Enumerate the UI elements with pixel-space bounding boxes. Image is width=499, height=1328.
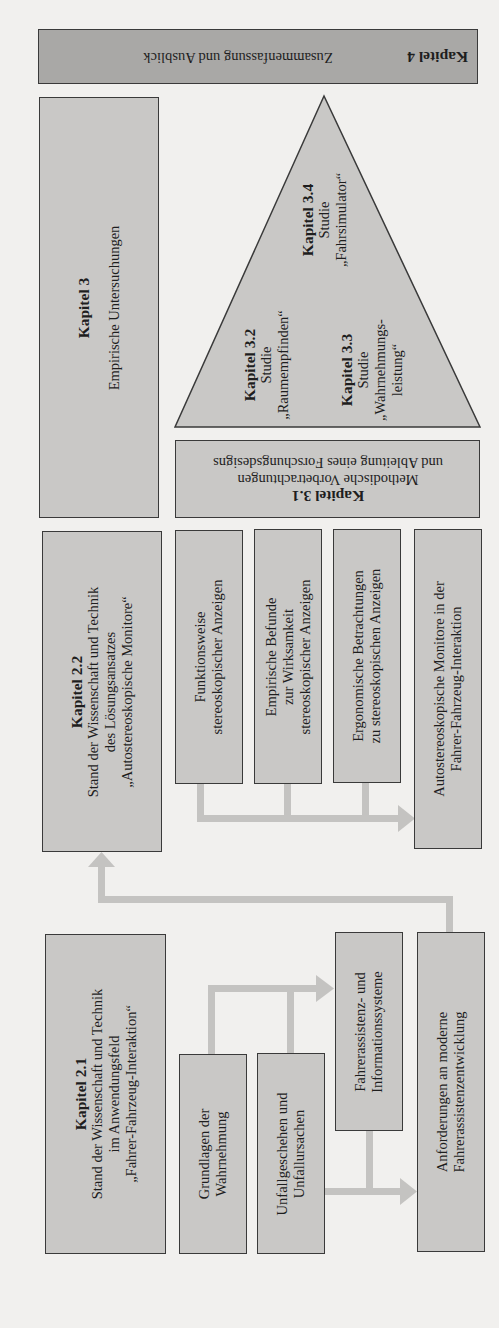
kapitel-3-4-line1: Studie — [316, 173, 333, 267]
fahrerassistenz-box: Fahrerassistenz- und Informationssysteme — [335, 932, 403, 1131]
fahrerassistenz-line1: Fahrerassistenz- und — [352, 971, 369, 1093]
funktionsweise-line2: stereoskopischer Anzeigen — [209, 579, 226, 734]
fahrerassistenz-line2: Informationssysteme — [369, 971, 386, 1093]
grundlagen-line1: Grundlagen der — [196, 1109, 213, 1200]
kapitel-3-4-line2: „Fahrsimulator“ — [333, 173, 350, 267]
arrow-to-anforderungen — [324, 1130, 417, 1205]
kapitel-3-2-line2: „Raumempfinden“ — [275, 310, 292, 420]
kapitel-3-text: Empirische Untersuchungen — [106, 225, 123, 390]
kapitel-4-box: Kapitel 4 Zusammenfassung und Ausblick — [38, 29, 478, 84]
kapitel-2-2-line3: „Autostereoskopische Monitore“ — [119, 586, 136, 797]
kapitel-3-title: Kapitel 3 — [75, 225, 92, 390]
kapitel-3-box: Kapitel 3 Empirische Untersuchungen — [39, 97, 159, 518]
kapitel-3-3-label: Kapitel 3.3 Studie „Wahrnehmungs- leistu… — [338, 319, 406, 421]
unfallgeschehen-line2: Unfallursachen — [291, 1092, 308, 1215]
kapitel-3-4-title: Kapitel 3.4 — [299, 173, 316, 267]
autostereo-line2: Fahrer-Fahrzeug-Interaktion — [448, 581, 465, 796]
kapitel-3-3-line3: leistung“ — [389, 319, 406, 421]
anforderungen-box: Anforderungen an moderne Fahrerassistenz… — [417, 932, 485, 1252]
kapitel-3-1-box: Kapitel 3.1 Methodische Vorbetrachtungen… — [175, 440, 480, 518]
ergonomische-line2: zu stereoskopischen Anzeigen — [367, 569, 384, 744]
ergonomische-line1: Ergonomische Betrachtungen — [350, 569, 367, 744]
arrow-to-kapitel-2-2 — [88, 852, 453, 933]
grundlagen-box: Grundlagen der Wahrnehmung — [179, 1054, 247, 1254]
kapitel-4-text: Zusammenfassung und Ausblick — [143, 48, 372, 65]
empirische-befunde-line1: Empirische Befunde — [263, 579, 280, 734]
kapitel-2-2-line1: Stand der Wissenschaft und Technik — [85, 586, 102, 797]
kapitel-3-3-line1: Studie — [355, 319, 372, 421]
kapitel-2-1-box: Kapitel 2.1 Stand der Wissenschaft und T… — [45, 934, 166, 1254]
unfallgeschehen-line1: Unfallgeschehen und — [274, 1092, 291, 1215]
kapitel-3-2-label: Kapitel 3.2 Studie „Raumempfinden“ — [241, 310, 292, 420]
kapitel-3-2-title: Kapitel 3.2 — [241, 310, 258, 420]
grundlagen-line2: Wahrnehmung — [213, 1109, 230, 1200]
kapitel-3-1-line2: und Ableitung eines Forschungsdesigns — [213, 454, 443, 471]
empirische-befunde-box: Empirische Befunde zur Wirksamkeit stere… — [254, 529, 322, 784]
autostereo-box: Autostereoskopische Monitore in der Fahr… — [414, 529, 482, 849]
kapitel-3-2-line1: Studie — [258, 310, 275, 420]
kapitel-2-1-title: Kapitel 2.1 — [72, 989, 89, 1200]
kapitel-3-3-line2: „Wahrnehmungs- — [372, 319, 389, 421]
anforderungen-line2: Fahrerassistenzentwicklung — [451, 1011, 468, 1172]
kapitel-2-1-line1: Stand der Wissenschaft und Technik — [89, 989, 106, 1200]
kapitel-4-title: Kapitel 4 — [407, 48, 468, 65]
arrow-to-autostereo — [197, 783, 415, 832]
ergonomische-box: Ergonomische Betrachtungen zu stereoskop… — [333, 529, 401, 783]
kapitel-3-1-title: Kapitel 3.1 — [213, 488, 443, 505]
kapitel-2-2-box: Kapitel 2.2 Stand der Wissenschaft und T… — [42, 531, 162, 852]
empirische-befunde-line2: zur Wirksamkeit — [280, 579, 297, 734]
funktionsweise-line1: Funktionsweise — [192, 579, 209, 734]
unfallgeschehen-box: Unfallgeschehen und Unfallursachen — [257, 1053, 325, 1254]
funktionsweise-box: Funktionsweise stereoskopischer Anzeigen — [175, 530, 243, 784]
kapitel-2-2-title: Kapitel 2.2 — [68, 586, 85, 797]
anforderungen-line1: Anforderungen an moderne — [434, 1011, 451, 1172]
kapitel-2-2-line2: des Lösungsansatzes — [102, 586, 119, 797]
kapitel-2-1-line3: „Fahrer-Fahrzeug-Interaktion“ — [123, 989, 140, 1200]
arrow-to-fahrerassistenz — [208, 975, 334, 1055]
kapitel-2-1-line2: im Anwendungsfeld — [106, 989, 123, 1200]
kapitel-3-4-label: Kapitel 3.4 Studie „Fahrsimulator“ — [299, 173, 350, 267]
kapitel-3-1-line1: Methodische Vorbetrachtungen — [213, 471, 443, 488]
empirische-befunde-line3: stereoskopischer Anzeigen — [297, 579, 314, 734]
kapitel-3-3-title: Kapitel 3.3 — [338, 319, 355, 421]
autostereo-line1: Autostereoskopische Monitore in der — [431, 581, 448, 796]
